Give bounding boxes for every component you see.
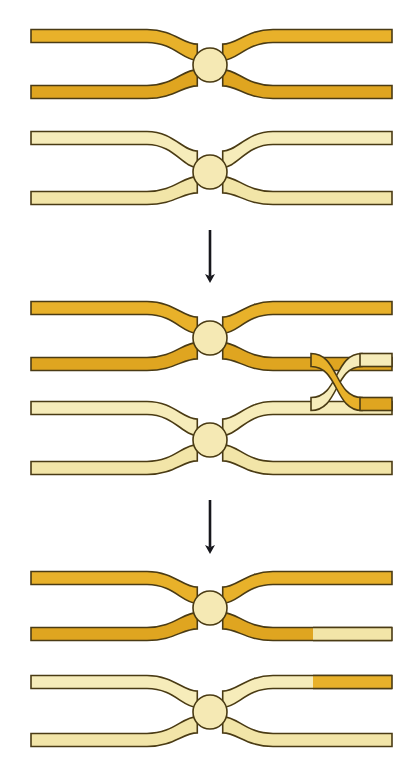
dna-duplex	[31, 402, 392, 475]
dna-strand-arm	[31, 177, 197, 205]
dna-strand-arm	[223, 445, 392, 475]
dna-duplex	[31, 30, 392, 99]
stage-recombinant-products	[31, 572, 392, 747]
recombinase-junction-node	[193, 695, 227, 729]
dna-duplex	[31, 132, 392, 205]
stage-parental-duplexes	[31, 30, 392, 205]
dna-strand-arm	[31, 132, 197, 168]
dna-strand-arm	[31, 445, 197, 475]
dna-strand-arm	[223, 302, 392, 334]
crossover-dark-tail	[360, 398, 392, 411]
dna-strand-arm	[223, 30, 392, 61]
dna-strand-arm	[31, 613, 197, 641]
recombination-diagram-canvas	[0, 0, 417, 774]
dna-strand-arm	[31, 402, 197, 436]
recombinase-junction-node	[193, 48, 227, 82]
dna-strand-arm	[223, 132, 392, 168]
dna-strand-arm	[223, 70, 392, 99]
dna-strand-arm	[31, 572, 197, 604]
dna-duplex	[31, 572, 392, 641]
dna-strand-arm	[31, 676, 197, 708]
dna-strand-arm	[31, 343, 197, 371]
dna-strand-arm	[31, 70, 197, 99]
dna-strand-arm	[31, 30, 197, 61]
recombinase-junction-node	[193, 591, 227, 625]
dna-strand-arm	[223, 177, 392, 205]
stage-strand-exchange-crossover	[31, 302, 392, 475]
recombinase-junction-node	[193, 321, 227, 355]
dna-strand-arm	[223, 572, 392, 604]
dna-strand-arm	[31, 717, 197, 747]
recombinase-junction-node	[193, 155, 227, 189]
recombination-figure	[0, 0, 417, 774]
dna-duplex	[31, 676, 392, 747]
recombinase-junction-node	[193, 423, 227, 457]
dna-duplex	[31, 302, 392, 371]
crossover-pale-tail	[360, 354, 392, 367]
dna-strand-arm	[31, 302, 197, 334]
dna-strand-arm	[223, 717, 392, 747]
